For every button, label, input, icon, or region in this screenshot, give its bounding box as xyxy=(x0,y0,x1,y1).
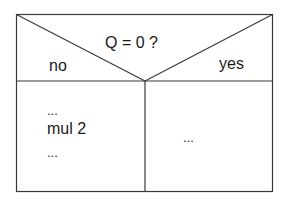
left-block-statement: mul 2 xyxy=(47,121,86,137)
decision-diagonal-right xyxy=(145,15,273,82)
condition-label: Q = 0 ? xyxy=(105,35,158,51)
branch-no-label: no xyxy=(49,58,67,74)
branch-yes-label: yes xyxy=(219,56,244,72)
diagram-lines xyxy=(0,0,288,201)
right-block-ellipsis: ... xyxy=(183,131,194,144)
left-block-ellipsis-bottom: ... xyxy=(47,146,58,159)
nassi-shneiderman-diagram: Q = 0 ? no yes ... mul 2 ... ... xyxy=(0,0,288,201)
left-block-ellipsis-top: ... xyxy=(47,104,58,117)
